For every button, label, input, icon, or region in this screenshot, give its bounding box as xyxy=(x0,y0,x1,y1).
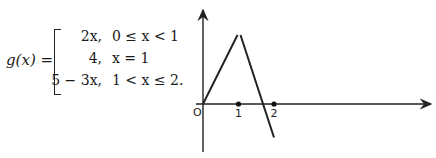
tick-label-1: 1 xyxy=(235,107,242,120)
tick-point-2 xyxy=(271,101,276,106)
left-segment xyxy=(203,35,238,104)
origin-label: O xyxy=(193,106,202,119)
tick-label-2: 2 xyxy=(271,107,278,120)
right-segment xyxy=(241,35,275,138)
tick-point-1 xyxy=(236,101,241,106)
function-graph: O 1 2 xyxy=(0,0,436,158)
